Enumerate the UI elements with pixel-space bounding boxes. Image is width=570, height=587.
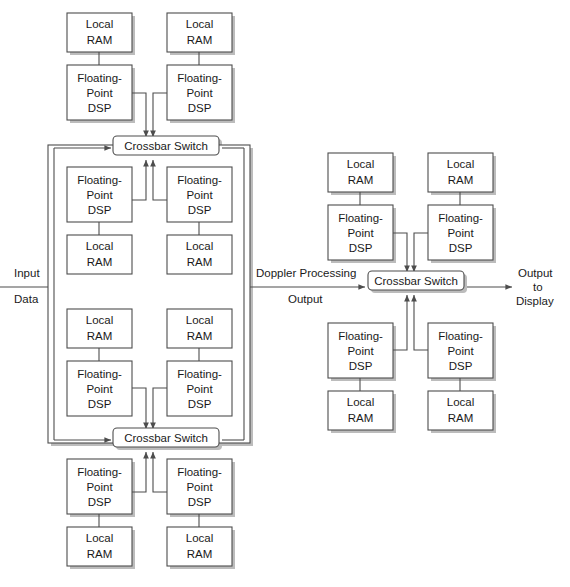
node-LB3-dsp-label-1: Floating-: [77, 466, 122, 478]
node-LT2-ram-label-2: RAM: [187, 34, 213, 46]
node-LB2-dsp-label-3: DSP: [188, 398, 212, 410]
node-LT3-ram-label-2: RAM: [87, 256, 113, 268]
node-LB1-ram-label-1: Local: [86, 314, 114, 326]
crossbar-bottom-left-label: Crossbar Switch: [124, 432, 208, 444]
node-LT4-ram-label-2: RAM: [187, 256, 213, 268]
link-R4-to-xbar: [414, 295, 428, 350]
output-label-line2: to: [533, 281, 543, 293]
doppler-label-line1: Doppler Processing: [256, 267, 356, 279]
node-LB1-dsp-label-2: Point: [86, 383, 113, 395]
node-LB2-dsp-label-1: Floating-: [177, 368, 222, 380]
node-LB3-ram-label-2: RAM: [87, 548, 113, 560]
node-LB4-dsp-label-1: Floating-: [177, 466, 222, 478]
node-LB3-dsp-label-3: DSP: [88, 496, 112, 508]
output-label-line1: Output: [518, 267, 553, 279]
node-R4-dsp-label-1: Floating-: [438, 330, 483, 342]
node-R3-dsp-label-2: Point: [347, 345, 374, 357]
node-R4-dsp-label-3: DSP: [449, 360, 473, 372]
node-LB2-dsp-label-2: Point: [186, 383, 213, 395]
node-LT2-dsp-label-1: Floating-: [177, 72, 222, 84]
node-LT2-dsp-label-3: DSP: [188, 102, 212, 114]
node-R3-ram-label-1: Local: [347, 396, 375, 408]
node-LT3-ram-label-1: Local: [86, 240, 114, 252]
block-diagram: Local RAM Floating- Point DSP Local RAM …: [0, 0, 570, 587]
node-LB1-dsp-label-1: Floating-: [77, 368, 122, 380]
node-LT1-ram-label-2: RAM: [87, 34, 113, 46]
node-LB4-ram-label-1: Local: [186, 532, 214, 544]
node-LT3-dsp-label-3: DSP: [88, 204, 112, 216]
node-LB2-ram-label-1: Local: [186, 314, 214, 326]
node-R1-dsp-label-2: Point: [347, 227, 374, 239]
node-R2-dsp-label-3: DSP: [449, 242, 473, 254]
node-LT4-dsp-label-1: Floating-: [177, 174, 222, 186]
node-R2-ram-label-1: Local: [447, 158, 475, 170]
node-R3-dsp-label-1: Floating-: [338, 330, 383, 342]
node-LT3-dsp-label-2: Point: [86, 189, 113, 201]
node-LB4-dsp-label-3: DSP: [188, 496, 212, 508]
output-label-line3: Display: [516, 295, 554, 307]
crossbar-top-left-label: Crossbar Switch: [124, 140, 208, 152]
node-LT1-ram-label-1: Local: [86, 18, 114, 30]
node-LB3-ram-label-1: Local: [86, 532, 114, 544]
input-label-line2: Data: [14, 293, 39, 305]
node-LB1-ram-label-2: RAM: [87, 330, 113, 342]
node-R2-ram-label-2: RAM: [448, 174, 474, 186]
node-R2-dsp-label-2: Point: [447, 227, 474, 239]
node-LT2-ram-label-1: Local: [186, 18, 214, 30]
node-LT3-dsp-label-1: Floating-: [77, 174, 122, 186]
node-R3-dsp-label-3: DSP: [349, 360, 373, 372]
link-LB5-to-botxbar: [153, 452, 167, 492]
node-R1-dsp-label-1: Floating-: [338, 212, 383, 224]
crossbar-right-label: Crossbar Switch: [374, 275, 458, 287]
node-R2-dsp-label-1: Floating-: [438, 212, 483, 224]
node-LT1-dsp-label-1: Floating-: [77, 72, 122, 84]
node-LB4-dsp-label-2: Point: [186, 481, 213, 493]
node-R3-ram-label-2: RAM: [348, 412, 374, 424]
node-LT1-dsp-label-3: DSP: [88, 102, 112, 114]
node-LB2-ram-label-2: RAM: [187, 330, 213, 342]
node-R1-ram-label-1: Local: [347, 158, 375, 170]
node-LT4-ram-label-1: Local: [186, 240, 214, 252]
link-R2-to-xbar: [414, 233, 428, 272]
node-LT2-dsp-label-2: Point: [186, 87, 213, 99]
node-LB3-dsp-label-2: Point: [86, 481, 113, 493]
diagram-canvas: Local RAM Floating- Point DSP Local RAM …: [0, 0, 570, 587]
node-LT4-dsp-label-2: Point: [186, 189, 213, 201]
node-LB1-dsp-label-3: DSP: [88, 398, 112, 410]
node-LB4-ram-label-2: RAM: [187, 548, 213, 560]
node-R4-ram-label-2: RAM: [448, 412, 474, 424]
node-R4-ram-label-1: Local: [447, 396, 475, 408]
node-R1-dsp-label-3: DSP: [349, 242, 373, 254]
node-LT4-dsp-label-3: DSP: [188, 204, 212, 216]
node-R1-ram-label-2: RAM: [348, 174, 374, 186]
node-LT1-dsp-label-2: Point: [86, 87, 113, 99]
node-R4-dsp-label-2: Point: [447, 345, 474, 357]
input-label-line1: Input: [14, 267, 40, 279]
link-LT2-to-topxbar: [153, 93, 167, 137]
doppler-label-line2: Output: [288, 293, 323, 305]
